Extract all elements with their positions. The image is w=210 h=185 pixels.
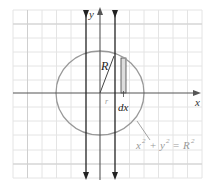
dx-strip: [121, 58, 126, 93]
grid: [13, 10, 202, 178]
eq-R: R: [182, 139, 190, 151]
eq-y: y: [159, 139, 165, 151]
radius-label: R: [100, 59, 109, 73]
eq-R-exp: 2: [191, 137, 195, 145]
eq-x: x: [135, 139, 141, 151]
eq-equals: =: [173, 139, 179, 151]
eq-x-exp: 2: [142, 137, 146, 145]
r-label: r: [105, 97, 109, 106]
dx-label: dx: [118, 101, 129, 113]
eq-plus: +: [150, 139, 156, 151]
y-axis-label: y: [88, 8, 94, 20]
x-axis-label: x: [194, 96, 200, 108]
circle-diagram: y x R r dx x 2 + y 2 = R 2: [0, 0, 210, 185]
eq-y-exp: 2: [166, 137, 170, 145]
grid-major: [13, 10, 202, 178]
